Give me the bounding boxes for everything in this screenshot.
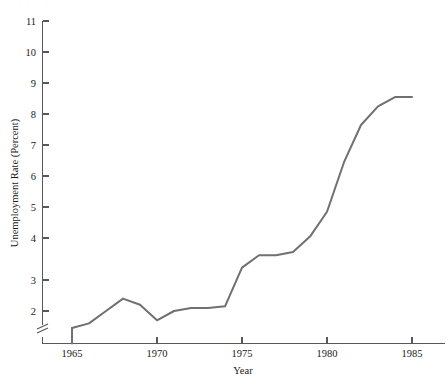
y-axis-break-symbol (37, 324, 48, 337)
plot-area: 11 10 9 8 7 6 5 4 3 2 1965 (9, 16, 445, 376)
x-tick-label-1985: 1985 (402, 348, 423, 359)
unemployment-rate-line-chart: · · · · · · · · (0, 0, 446, 380)
x-tick-label-1970: 1970 (147, 348, 168, 359)
y-tick-label-5: 5 (31, 202, 36, 213)
y-tick-label-2: 2 (31, 306, 36, 317)
y-tick-label-7: 7 (31, 140, 36, 151)
x-axis-title: Year (233, 365, 253, 376)
page-header-artifact: · · · · · · · · (0, 0, 446, 9)
x-tick-label-1980: 1980 (317, 348, 338, 359)
y-axis-title: Unemployment Rate (Percent) (9, 118, 21, 247)
y-axis-tick-labels: 11 10 9 8 7 6 5 4 3 2 (26, 16, 37, 317)
y-tick-label-8: 8 (31, 109, 36, 120)
x-axis-ticks (72, 337, 412, 344)
y-tick-label-11: 11 (26, 16, 36, 27)
y-tick-label-9: 9 (31, 78, 36, 89)
x-axis-tick-labels: 1965 1970 1975 1980 1985 (62, 348, 423, 359)
y-tick-label-3: 3 (31, 275, 36, 286)
x-tick-label-1975: 1975 (232, 348, 253, 359)
y-axis-ticks (43, 21, 50, 311)
y-tick-label-10: 10 (26, 47, 37, 58)
x-tick-label-1965: 1965 (62, 348, 83, 359)
chart-canvas: 11 10 9 8 7 6 5 4 3 2 1965 (0, 0, 446, 380)
data-series-unemployment-rate (72, 97, 412, 328)
y-tick-label-6: 6 (31, 171, 36, 182)
y-tick-label-4: 4 (31, 233, 37, 244)
